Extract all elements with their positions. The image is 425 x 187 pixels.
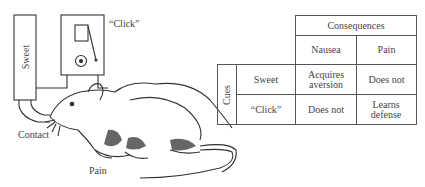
row-group-cues: Cues [218, 65, 236, 124]
click-label: “Click” [109, 18, 140, 29]
cell-click-nausea: Does not [296, 95, 356, 124]
pain-label: Pain [89, 165, 107, 176]
column-header-pain: Pain [357, 36, 416, 64]
column-header-nausea: Nausea [296, 36, 356, 64]
table-border [217, 124, 417, 125]
cell-click-pain: Learns defense [362, 95, 410, 124]
row-label-click: “Click” [237, 95, 295, 124]
cues-label: Cues [222, 85, 232, 105]
header-consequences: Consequences [296, 16, 416, 35]
contact-label: Contact [18, 129, 49, 140]
sweet-label: Sweet [20, 45, 31, 69]
table-border [416, 15, 417, 124]
row-label-sweet: Sweet [237, 65, 295, 94]
cell-sweet-nausea: Acquires aversion [300, 65, 352, 94]
cell-sweet-pain: Does not [357, 65, 416, 94]
